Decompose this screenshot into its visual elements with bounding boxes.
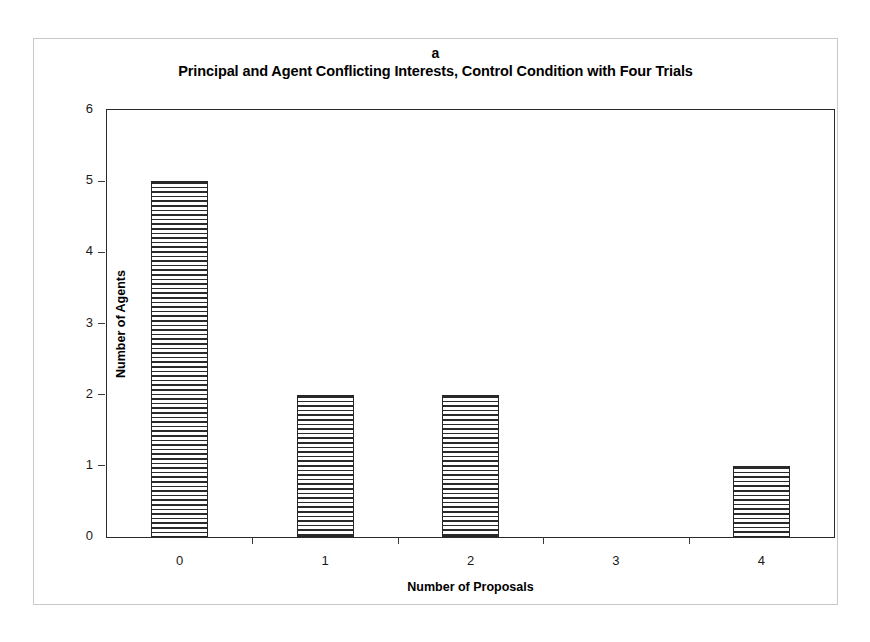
y-axis-tick-mark: [98, 323, 105, 324]
bar: [151, 181, 208, 537]
y-axis-tick-mark: [98, 252, 105, 253]
x-axis-tick-label: 4: [758, 553, 765, 568]
y-axis-tick-label: 6: [86, 101, 93, 116]
y-axis-tick-label: 4: [86, 243, 93, 258]
bar: [733, 466, 790, 537]
x-axis-tick-mark: [543, 537, 544, 544]
x-axis-tick-mark: [398, 537, 399, 544]
y-axis-tick-mark: [98, 465, 105, 466]
panel-label: a: [34, 45, 837, 61]
y-axis-tick-label: 2: [86, 386, 93, 401]
chart-title: Principal and Agent Conflicting Interest…: [34, 63, 837, 79]
x-axis-tick-mark: [252, 537, 253, 544]
x-axis-tick-label: 0: [176, 553, 183, 568]
x-axis-tick-label: 3: [612, 553, 619, 568]
y-axis-tick-mark: [98, 394, 105, 395]
y-axis-tick-mark: [98, 181, 105, 182]
y-axis-tick-label: 0: [86, 528, 93, 543]
y-axis-tick-label: 1: [86, 457, 93, 472]
bars-layer: [107, 110, 834, 537]
plot-area: Number of Agents 0123456 01234 Number of…: [106, 109, 835, 538]
bar: [442, 395, 499, 537]
x-axis-tick-mark: [689, 537, 690, 544]
x-axis-title: Number of Proposals: [107, 580, 834, 594]
figure-frame: a Principal and Agent Conflicting Intere…: [33, 38, 838, 605]
y-axis-tick-label: 3: [86, 315, 93, 330]
y-axis-tick-label: 5: [86, 172, 93, 187]
x-axis-tick-label: 1: [321, 553, 328, 568]
bar: [297, 395, 354, 537]
x-axis-tick-label: 2: [467, 553, 474, 568]
